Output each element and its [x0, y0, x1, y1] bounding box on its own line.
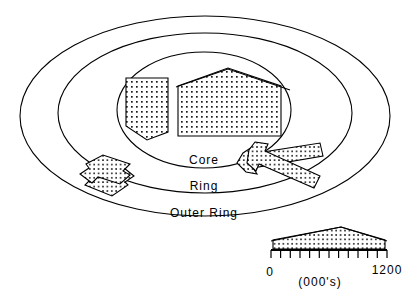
ring-label: Ring	[190, 179, 219, 193]
zonal-flow-diagram: Core Ring Outer Ring 0 1200	[0, 0, 417, 299]
left-core-block	[126, 78, 168, 140]
diagram-canvas: Core Ring Outer Ring 0 1200	[0, 0, 417, 299]
scale-max-label: 1200	[372, 263, 403, 277]
outer-ring-label: Outer Ring	[170, 206, 238, 220]
core-label: Core	[189, 153, 219, 167]
scale-min-label: 0	[266, 265, 274, 279]
scale-units-label: (000's)	[298, 275, 341, 289]
canvas-background	[0, 0, 417, 299]
